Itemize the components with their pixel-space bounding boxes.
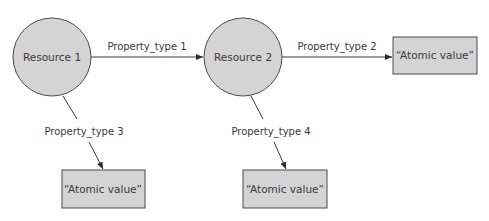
edge-label: Property_type 1 bbox=[107, 41, 186, 53]
edge-property-type-1: Property_type 1 bbox=[91, 41, 203, 57]
node-label: “Atomic value” bbox=[64, 183, 142, 195]
node-label: Resource 1 bbox=[23, 51, 81, 63]
node-label: “Atomic value” bbox=[246, 183, 324, 195]
arrow-line bbox=[274, 142, 286, 169]
rdf-graph-diagram: Property_type 1 Property_type 2 Property… bbox=[0, 0, 489, 221]
node-atomic-value-right: “Atomic value” bbox=[393, 37, 477, 74]
edge-label: Property_type 4 bbox=[231, 126, 310, 138]
edge-property-type-2: Property_type 2 bbox=[282, 41, 392, 57]
node-resource-2: Resource 2 bbox=[204, 18, 282, 96]
arrow-line bbox=[89, 142, 103, 169]
edge-property-type-3: Property_type 3 bbox=[44, 96, 123, 169]
node-label: Resource 2 bbox=[214, 51, 272, 63]
edge-property-type-4: Property_type 4 bbox=[231, 96, 310, 169]
node-label: “Atomic value” bbox=[396, 49, 474, 61]
connector-line bbox=[63, 96, 77, 119]
connector-line bbox=[251, 96, 263, 119]
edge-label: Property_type 3 bbox=[44, 126, 123, 138]
node-resource-1: Resource 1 bbox=[13, 18, 91, 96]
node-atomic-value-bottom-left: “Atomic value” bbox=[62, 170, 145, 208]
node-atomic-value-bottom-mid: “Atomic value” bbox=[243, 170, 327, 208]
edge-label: Property_type 2 bbox=[297, 41, 376, 53]
